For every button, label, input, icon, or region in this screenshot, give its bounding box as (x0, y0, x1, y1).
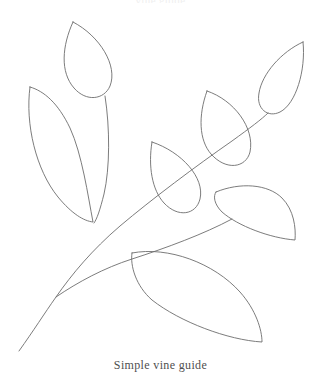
leaf-upper-right-teardrop-path (259, 42, 304, 114)
leaf-right-pointing-path (214, 186, 295, 240)
vine-drawing-canvas (0, 0, 321, 387)
leaf-left-inner-sliver-path (94, 96, 109, 223)
leaf-upper-middle-teardrop-path (201, 91, 251, 165)
vine-illustration (0, 0, 321, 387)
branch-stem-path (56, 219, 232, 297)
figure-caption: Simple vine guide (0, 358, 321, 373)
main-stem-path (19, 113, 268, 351)
leaf-middle-teardrop-path (151, 142, 201, 213)
leaf-upper-left-teardrop-path (64, 22, 112, 98)
figure-page: vine guide Simple vine guide (0, 0, 321, 387)
leaf-large-left-path (29, 87, 93, 222)
leaf-large-bottom-path (132, 251, 262, 342)
